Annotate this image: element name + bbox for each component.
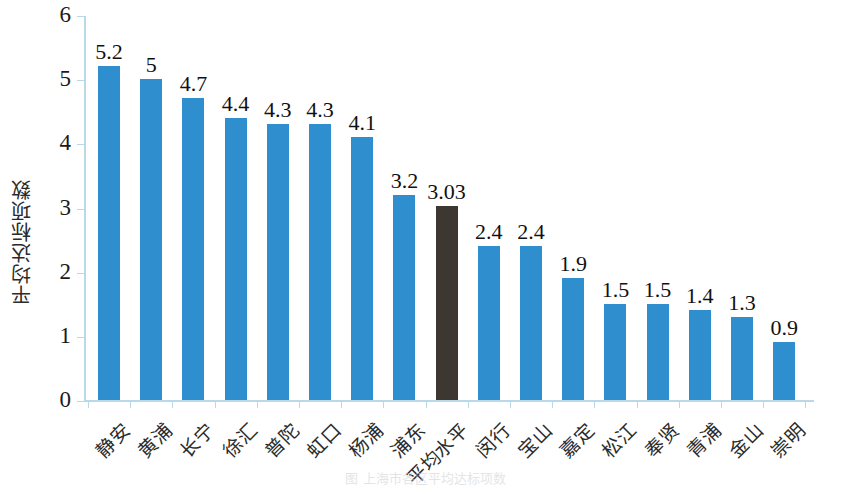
x-axis-line <box>84 400 814 402</box>
x-axis-tick <box>215 401 216 408</box>
bar: 0.9 <box>773 342 795 400</box>
bar: 4.3 <box>309 124 331 400</box>
y-axis-tick: 6 <box>77 16 84 17</box>
y-axis-tick-label: 4 <box>60 131 72 154</box>
bar-value-label: 5 <box>146 54 157 76</box>
x-axis-tick <box>552 401 553 408</box>
bar: 1.9 <box>562 278 584 400</box>
x-axis-tick <box>510 401 511 408</box>
bar-value-label: 1.3 <box>728 292 756 314</box>
bar-value-label: 3.03 <box>427 181 466 203</box>
y-axis-tick: 5 <box>77 80 84 81</box>
bar: 2.4 <box>520 246 542 400</box>
bar: 1.5 <box>604 304 626 400</box>
x-axis-label: 松江 <box>599 420 641 462</box>
bar: 4.7 <box>182 98 204 400</box>
x-axis-label: 杨浦 <box>345 420 387 462</box>
caption-remnant: 图 上海市各区平均达标项数 <box>0 468 851 486</box>
bar-value-label: 3.2 <box>391 170 419 192</box>
x-axis-tick <box>299 401 300 408</box>
x-axis-tick <box>721 401 722 408</box>
bar-value-label: 1.5 <box>602 279 630 301</box>
y-axis-tick: 1 <box>77 337 84 338</box>
y-axis-tick: 0 <box>77 401 84 402</box>
bar: 1.5 <box>647 304 669 400</box>
y-axis-tick-label: 6 <box>60 3 72 26</box>
bar-value-label: 4.4 <box>222 93 250 115</box>
bar: 1.3 <box>731 317 753 400</box>
x-axis-tick <box>172 401 173 408</box>
x-axis-tick <box>426 401 427 408</box>
bar: 2.4 <box>478 246 500 400</box>
bar-value-label: 4.7 <box>180 73 208 95</box>
bar-value-label: 1.4 <box>686 285 714 307</box>
y-axis-tick: 3 <box>77 209 84 210</box>
bar: 4.3 <box>267 124 289 400</box>
x-axis-label: 宝山 <box>514 420 556 462</box>
x-axis-label: 虹口 <box>303 420 345 462</box>
x-axis-tick <box>130 401 131 408</box>
bar-value-label: 0.9 <box>770 317 798 339</box>
y-axis-title: 平均达标项数 <box>10 152 40 332</box>
x-axis-label: 黄浦 <box>134 420 176 462</box>
x-axis-tick <box>805 401 806 408</box>
bar: 5.2 <box>98 66 120 400</box>
x-axis-tick <box>341 401 342 408</box>
bar: 3.2 <box>393 195 415 400</box>
x-axis-tick <box>88 401 89 408</box>
bar-value-label: 5.2 <box>95 41 123 63</box>
bar-value-label: 1.5 <box>644 279 672 301</box>
x-axis-label: 奉贤 <box>641 420 683 462</box>
y-axis-tick: 4 <box>77 144 84 145</box>
x-axis-label: 嘉定 <box>556 420 598 462</box>
x-axis-tick <box>468 401 469 408</box>
bar: 4.4 <box>225 118 247 400</box>
x-axis-tick <box>637 401 638 408</box>
bar-value-label: 4.1 <box>348 112 376 134</box>
bar-value-label: 1.9 <box>559 253 587 275</box>
x-axis-label: 静安 <box>92 420 134 462</box>
bar-value-label: 2.4 <box>475 221 503 243</box>
x-axis-label: 普陀 <box>261 420 303 462</box>
x-axis-tick <box>383 401 384 408</box>
bar: 4.1 <box>351 137 373 400</box>
bar: 5 <box>140 79 162 400</box>
plot-area: 6543210 5.254.74.44.34.34.13.23.032.42.4… <box>84 16 814 401</box>
x-axis-label: 闵行 <box>472 420 514 462</box>
x-axis-label: 青浦 <box>683 420 725 462</box>
x-axis-label: 金山 <box>725 420 767 462</box>
bar: 1.4 <box>689 310 711 400</box>
x-axis-tick <box>257 401 258 408</box>
bar-value-label: 4.3 <box>264 99 292 121</box>
x-axis-tick <box>763 401 764 408</box>
y-axis-tick: 2 <box>77 273 84 274</box>
y-axis-line <box>84 16 86 401</box>
x-axis-label: 长宁 <box>177 420 219 462</box>
x-axis-label: 崇明 <box>767 420 809 462</box>
y-axis-tick-label: 2 <box>60 260 72 283</box>
bar-chart-figure: 平均达标项数 6543210 5.254.74.44.34.34.13.23.0… <box>0 0 851 501</box>
bar: 3.03 <box>436 206 458 400</box>
bar-value-label: 4.3 <box>306 99 334 121</box>
x-axis-label: 徐汇 <box>219 420 261 462</box>
y-axis-tick-label: 3 <box>60 196 72 219</box>
y-axis-tick-label: 5 <box>60 67 72 90</box>
y-axis-tick-label: 1 <box>60 324 72 347</box>
y-axis-tick-label: 0 <box>60 388 72 411</box>
x-axis-tick <box>594 401 595 408</box>
bar-value-label: 2.4 <box>517 221 545 243</box>
x-axis-tick <box>679 401 680 408</box>
